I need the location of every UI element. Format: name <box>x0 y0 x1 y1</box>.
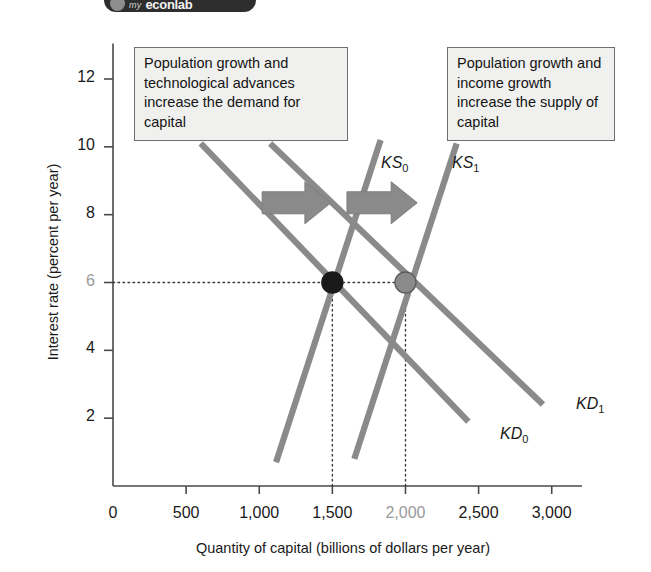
curve-label-kd1: KD1 <box>576 395 604 415</box>
x-tick-label-1500: 1,500 <box>302 504 362 522</box>
new-equilibrium <box>395 272 416 293</box>
x-tick-label-0: 0 <box>83 504 143 522</box>
demand-shift-note: Population growth and technological adva… <box>134 47 348 141</box>
supply-shift-note: Population growth and income growth incr… <box>447 47 615 141</box>
x-tick-label-3000: 3,000 <box>522 504 582 522</box>
curve-label-kd0: KD0 <box>500 425 528 445</box>
capital-market-figure: my econlab Interest rate (percent per ye… <box>0 0 651 572</box>
initial-equilibrium <box>322 272 343 293</box>
y-tick-label-8: 8 <box>55 204 95 222</box>
y-tick-label-6: 6 <box>55 272 95 290</box>
curve-label-ks0: KS0 <box>381 154 408 174</box>
curve-label-ks1: KS1 <box>452 154 479 174</box>
y-tick-label-2: 2 <box>55 407 95 425</box>
x-tick-label-500: 500 <box>156 504 216 522</box>
y-tick-label-4: 4 <box>55 339 95 357</box>
y-tick-label-12: 12 <box>55 68 95 86</box>
x-tick-label-2000: 2,000 <box>375 504 435 522</box>
x-tick-label-1000: 1,000 <box>229 504 289 522</box>
x-tick-label-2500: 2,500 <box>449 504 509 522</box>
y-tick-label-10: 10 <box>55 136 95 154</box>
curve-ks0 <box>276 140 381 462</box>
